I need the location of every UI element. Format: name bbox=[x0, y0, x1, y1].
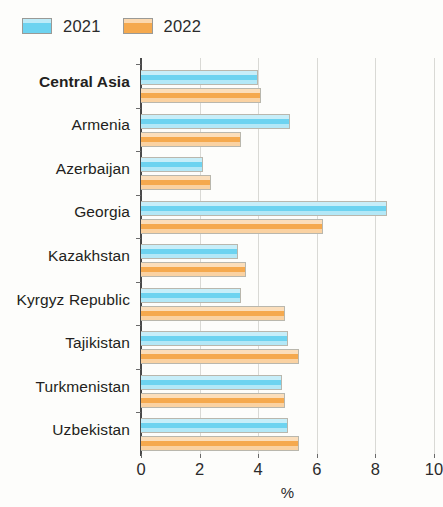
y-axis-tick bbox=[136, 108, 141, 109]
y-axis-tick bbox=[136, 412, 141, 413]
legend-label: 2021 bbox=[63, 17, 101, 36]
x-axis-title: % bbox=[141, 484, 434, 501]
bar-group: Azerbaijan bbox=[141, 149, 434, 193]
bar-2022 bbox=[141, 262, 246, 277]
bar-2022 bbox=[141, 436, 299, 451]
x-axis: 0246810 bbox=[141, 454, 434, 480]
x-tick-mark bbox=[200, 454, 201, 458]
x-tick-mark bbox=[375, 454, 376, 458]
category-label: Georgia bbox=[0, 203, 130, 221]
bar-2022 bbox=[141, 132, 241, 147]
x-tick-mark bbox=[141, 454, 142, 458]
category-label: Azerbaijan bbox=[0, 160, 130, 178]
y-axis-tick bbox=[136, 325, 141, 326]
x-tick-mark bbox=[434, 454, 435, 458]
bar-2021 bbox=[141, 288, 241, 303]
bar-group: Georgia bbox=[141, 193, 434, 237]
bar-group: Uzbekistan bbox=[141, 410, 434, 454]
bar-2022 bbox=[141, 219, 323, 234]
x-tick-label: 2 bbox=[195, 460, 204, 479]
bar-2021 bbox=[141, 331, 288, 346]
x-tick-label: 0 bbox=[136, 460, 145, 479]
category-label: Armenia bbox=[0, 116, 130, 134]
category-label: Tajikistan bbox=[0, 334, 130, 352]
y-axis-tick bbox=[136, 238, 141, 239]
bar-2022 bbox=[141, 306, 285, 321]
chart-legend: 20212022 bbox=[0, 9, 223, 43]
legend-label: 2022 bbox=[164, 17, 202, 36]
category-label: Central Asia bbox=[0, 73, 130, 91]
bar-group: Kazakhstan bbox=[141, 236, 434, 280]
x-tick-mark bbox=[317, 454, 318, 458]
bar-2021 bbox=[141, 157, 203, 172]
y-axis-tick bbox=[136, 282, 141, 283]
category-label: Uzbekistan bbox=[0, 421, 130, 439]
bar-2021 bbox=[141, 418, 288, 433]
category-label: Turkmenistan bbox=[0, 378, 130, 396]
x-tick-label: 10 bbox=[425, 460, 443, 479]
bar-2021 bbox=[141, 201, 387, 216]
x-tick-mark bbox=[258, 454, 259, 458]
gridline-10 bbox=[434, 58, 435, 456]
legend-swatch-2022 bbox=[123, 18, 153, 34]
x-tick-label: 6 bbox=[312, 460, 321, 479]
y-axis-tick bbox=[136, 195, 141, 196]
category-label: Kazakhstan bbox=[0, 247, 130, 265]
x-tick-label: 8 bbox=[371, 460, 380, 479]
x-tick-label: 4 bbox=[254, 460, 263, 479]
bar-2022 bbox=[141, 349, 299, 364]
y-axis-tick bbox=[136, 369, 141, 370]
legend-swatch-2021 bbox=[22, 18, 52, 34]
y-axis-tick bbox=[136, 64, 141, 65]
bar-2022 bbox=[141, 175, 211, 190]
bar-group: Turkmenistan bbox=[141, 367, 434, 411]
y-axis-tick bbox=[136, 151, 141, 152]
legend-item-2021: 2021 bbox=[22, 17, 101, 36]
category-label: Kyrgyz Republic bbox=[0, 291, 130, 309]
bar-group: Tajikistan bbox=[141, 323, 434, 367]
bar-group: Central Asia bbox=[141, 62, 434, 106]
bar-2021 bbox=[141, 70, 258, 85]
plot-area: Central AsiaArmeniaAzerbaijanGeorgiaKaza… bbox=[141, 62, 434, 454]
bar-group: Kyrgyz Republic bbox=[141, 280, 434, 324]
bar-2021 bbox=[141, 114, 290, 129]
bar-2022 bbox=[141, 393, 285, 408]
bar-2022 bbox=[141, 88, 261, 103]
bar-group: Armenia bbox=[141, 106, 434, 150]
bar-2021 bbox=[141, 244, 238, 259]
legend-item-2022: 2022 bbox=[123, 17, 202, 36]
bar-2021 bbox=[141, 375, 282, 390]
